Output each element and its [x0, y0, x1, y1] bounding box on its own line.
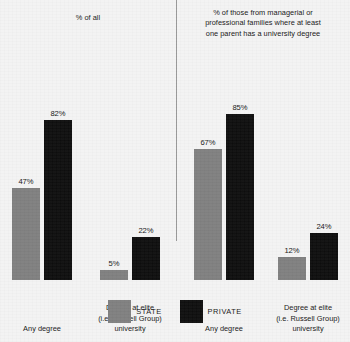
- bar-value-label: 85%: [232, 103, 247, 112]
- legend-item-state[interactable]: STATE: [108, 300, 161, 323]
- panel-title-line: % of those from managerial or: [176, 8, 350, 18]
- bar-state-any-degree-all[interactable]: 47%: [12, 177, 40, 280]
- bars: 67% 85%: [186, 105, 262, 280]
- group-label-any-degree: Any degree: [0, 324, 88, 334]
- bar-chart: % of all 47% 82% Any degree 5% 22%: [0, 0, 350, 342]
- bar-state-any-degree-managerial[interactable]: 67%: [194, 138, 222, 280]
- group-managerial-elite-degree: 12% 24% Degree at elite (i.e. Russell Gr…: [270, 52, 346, 342]
- legend-label-private: PRIVATE: [208, 307, 242, 316]
- panel-all-title: % of all: [0, 13, 176, 23]
- bar-rect-private[interactable]: [44, 120, 72, 280]
- bar-private-any-degree-all[interactable]: 82%: [44, 109, 72, 280]
- bar-value-label: 12%: [284, 246, 299, 255]
- bar-value-label: 47%: [18, 177, 33, 186]
- bar-value-label: 82%: [50, 109, 65, 118]
- bar-rect-state[interactable]: [100, 270, 128, 280]
- bar-rect-state[interactable]: [12, 188, 40, 280]
- bar-rect-state[interactable]: [194, 149, 222, 280]
- legend-item-private[interactable]: PRIVATE: [180, 300, 242, 323]
- panel-title-line: one parent has a university degree: [176, 29, 350, 39]
- bar-value-label: 67%: [200, 138, 215, 147]
- legend-swatch-state-icon: [108, 300, 131, 323]
- legend-swatch-private-icon: [180, 300, 203, 323]
- bar-state-elite-degree-all[interactable]: 5%: [100, 259, 128, 280]
- panel-managerial-title: % of those from managerial or profession…: [176, 8, 350, 39]
- bar-rect-private[interactable]: [310, 233, 338, 280]
- bar-rect-state[interactable]: [278, 257, 306, 280]
- bar-private-elite-degree-managerial[interactable]: 24%: [310, 222, 338, 280]
- bar-private-any-degree-managerial[interactable]: 85%: [226, 103, 254, 280]
- panel-divider: [176, 0, 177, 241]
- bar-private-elite-degree-all[interactable]: 22%: [132, 226, 160, 280]
- bars: 47% 82%: [4, 105, 80, 280]
- bars: 12% 24%: [270, 105, 346, 280]
- group-label-line: Any degree: [178, 324, 270, 334]
- chart-legend: STATE PRIVATE: [0, 300, 350, 323]
- bar-value-label: 22%: [138, 226, 153, 235]
- bar-value-label: 5%: [109, 259, 120, 268]
- group-label-line: university: [84, 324, 176, 334]
- bars: 5% 22%: [92, 105, 168, 280]
- group-label-line: university: [262, 324, 350, 334]
- bar-rect-private[interactable]: [226, 114, 254, 280]
- group-all-elite-degree: 5% 22% Degree at elite (i.e. Russell Gro…: [92, 52, 168, 342]
- group-label-any-degree: Any degree: [178, 324, 270, 334]
- legend-label-state: STATE: [136, 307, 161, 316]
- group-all-any-degree: 47% 82% Any degree: [4, 52, 80, 342]
- panel-title-line: professional families where at least: [176, 18, 350, 28]
- group-managerial-any-degree: 67% 85% Any degree: [186, 52, 262, 342]
- group-label-line: Any degree: [0, 324, 88, 334]
- bar-rect-private[interactable]: [132, 237, 160, 280]
- bar-value-label: 24%: [316, 222, 331, 231]
- bar-state-elite-degree-managerial[interactable]: 12%: [278, 246, 306, 280]
